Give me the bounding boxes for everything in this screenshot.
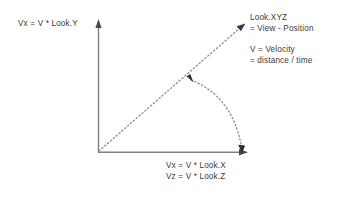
y-axis-arrowhead-icon: [95, 19, 101, 28]
y-axis-component-label: Vx = V * Look.Y: [18, 18, 78, 29]
x-axis-component-label: Vx = V * Look.X Vz = V * Look.Z: [166, 160, 226, 182]
velocity-annotation: V = Velocity = distance / time: [250, 44, 312, 66]
x-axis-arrowhead-icon: [239, 149, 248, 155]
look-vector-dotted-line: [99, 28, 240, 151]
look-xyz-annotation: Look.XYZ = View - Position: [250, 12, 314, 34]
look-xyz-line-2: = View - Position: [250, 23, 314, 34]
arc-start-arrowhead-icon: [187, 74, 194, 83]
velocity-line-1: V = Velocity: [250, 44, 312, 55]
angle-arc-dotted: [191, 80, 241, 146]
velocity-line-2: = distance / time: [250, 55, 312, 66]
z-component-line: Vz = V * Look.Z: [166, 171, 226, 182]
x-component-line: Vx = V * Look.X: [166, 160, 226, 171]
look-xyz-line-1: Look.XYZ: [250, 12, 314, 23]
